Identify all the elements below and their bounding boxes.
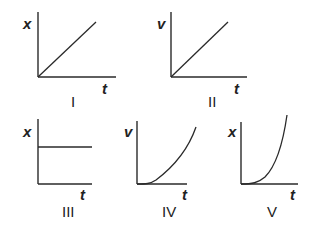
graph-iii: x t III bbox=[22, 119, 92, 220]
velocity-curve bbox=[137, 127, 196, 184]
x-axis-label: t bbox=[80, 186, 86, 203]
graph-numeral: V bbox=[267, 203, 277, 220]
x-axis-label: t bbox=[182, 186, 188, 203]
graph-numeral: III bbox=[62, 203, 75, 220]
graph-iv: v t IV bbox=[124, 121, 196, 220]
x-axis-label: t bbox=[290, 186, 296, 203]
graph-numeral: I bbox=[71, 93, 75, 110]
graph-numeral: IV bbox=[162, 203, 176, 220]
y-axis-label: v bbox=[157, 15, 167, 32]
velocity-line bbox=[171, 22, 228, 77]
position-line bbox=[38, 22, 96, 77]
y-axis-label: v bbox=[124, 123, 134, 140]
x-axis-label: t bbox=[234, 80, 240, 97]
graph-v: x t V bbox=[227, 115, 298, 220]
graphs-figure: x t I v t II x t III v t IV x t V bbox=[0, 0, 317, 231]
graph-i: x t I bbox=[22, 12, 116, 110]
graph-ii: v t II bbox=[157, 12, 247, 110]
x-axis-label: t bbox=[102, 80, 108, 97]
position-curve bbox=[241, 115, 287, 184]
graph-numeral: II bbox=[208, 93, 216, 110]
y-axis-label: x bbox=[22, 15, 32, 32]
y-axis-label: x bbox=[227, 123, 237, 140]
y-axis-label: x bbox=[22, 123, 32, 140]
